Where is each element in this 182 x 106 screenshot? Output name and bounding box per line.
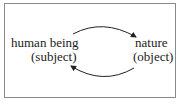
arrow-object-to-subject <box>71 66 134 77</box>
arrow-subject-to-object <box>73 27 136 37</box>
cycle-arrows <box>0 0 182 106</box>
